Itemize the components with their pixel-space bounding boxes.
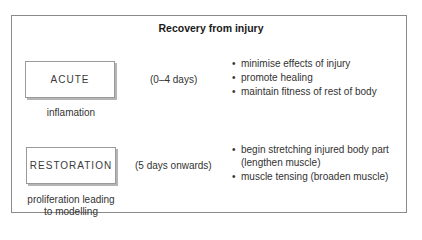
stage-duration-restoration: (5 days onwards) [135,160,212,171]
diagram-title: Recovery from injury [0,22,422,34]
stage-label-restoration: RESTORATION [30,160,112,171]
stage-caption-line: to modelling [16,206,126,218]
goal-item: promote healing [232,71,407,84]
stage-caption-acute: inflamation [16,107,126,119]
goal-item: muscle tensing (broaden muscle) [232,170,407,183]
stage-label-acute: ACUTE [51,74,90,85]
goal-item: begin stretching injured body part (leng… [232,143,407,169]
stage-caption-restoration: proliferation leading to modelling [16,194,126,218]
stage-caption-line: proliferation leading [16,194,126,206]
stage-goals-restoration: begin stretching injured body part (leng… [232,143,407,184]
stage-box-acute: ACUTE [25,61,115,98]
stage-goals-acute: minimise effects of injury promote heali… [232,57,407,99]
goal-item: maintain fitness of rest of body [232,85,407,98]
stage-duration-acute: (0–4 days) [150,74,197,85]
stage-caption-text: inflamation [47,107,95,118]
goal-item: minimise effects of injury [232,57,407,70]
stage-box-restoration: RESTORATION [26,147,116,184]
